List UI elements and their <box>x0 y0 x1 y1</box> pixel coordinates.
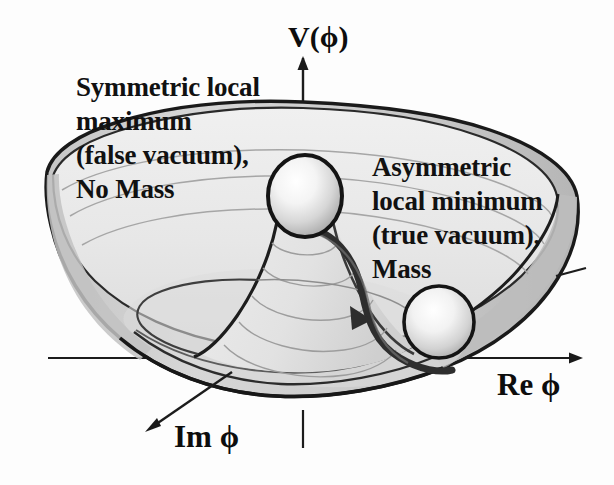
annotation-true-vacuum-line-1: Asymmetric <box>372 150 543 184</box>
ball-at-false-vacuum <box>268 155 342 237</box>
im-axis-label: Im ϕ <box>174 419 239 455</box>
annotation-true-vacuum-line-3: (true vacuum), <box>372 218 543 252</box>
annotation-false-vacuum-line-2: maximum <box>76 104 260 138</box>
v-axis-arrowhead <box>298 56 309 70</box>
v-axis-label: V(ϕ) <box>288 20 348 54</box>
figure-canvas: Symmetric local maximum (false vacuum), … <box>0 0 614 485</box>
annotation-true-vacuum: Asymmetric local minimum (true vacuum), … <box>372 150 543 286</box>
annotation-true-vacuum-line-4: Mass <box>372 252 543 286</box>
annotation-true-vacuum-line-2: local minimum <box>372 184 543 218</box>
ball-at-true-vacuum <box>404 286 474 358</box>
annotation-false-vacuum-line-3: (false vacuum), <box>76 138 260 172</box>
annotation-false-vacuum-line-1: Symmetric local <box>76 70 260 104</box>
annotation-false-vacuum-line-4: No Mass <box>76 172 260 206</box>
annotation-false-vacuum: Symmetric local maximum (false vacuum), … <box>76 70 260 206</box>
re-axis-label: Re ϕ <box>497 367 560 403</box>
re-axis-arrowhead <box>569 353 583 364</box>
